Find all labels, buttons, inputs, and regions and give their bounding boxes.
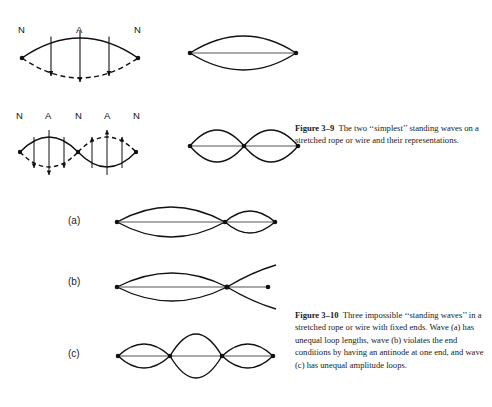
node-dot-left [115,220,120,225]
loop1-arc-up [190,130,244,146]
figure-3-9-row-1-rope [20,31,141,82]
loop-small-arc-up [225,211,275,222]
node-dot-middle [242,144,247,149]
loop-small-arc-down [225,222,275,233]
antinode-label-row2-2: A [45,110,51,121]
node-label-row2-5: N [133,110,140,121]
node-dot-right [273,220,278,225]
node-dot-left [188,51,193,56]
node-dot-right [136,56,141,61]
node-dot-4 [271,354,276,359]
figure-3-10-caption: Figure 3–10 Three impossible ‘‘standing … [295,309,485,371]
figure-3-9-caption: Figure 3–9 The two ‘‘simplest’’ standing… [295,122,485,147]
node-dot-1 [116,354,121,359]
figure-3-10-panel-c-wave [116,334,276,378]
node-dot-right [134,150,138,154]
loop3-arc-down [222,356,273,368]
loop3-arc-up [222,344,273,356]
loop-arc-down [190,53,296,70]
panel-label-c: (c) [68,348,80,359]
node-label-row2-3: N [75,110,82,121]
loop1-arc-down [190,146,244,162]
node-dot-3 [220,354,225,359]
node-dot-left [115,285,120,290]
figure-3-9-row-1-representation [188,36,299,70]
node-dot-left [20,56,25,61]
node-dot-middle [223,220,228,225]
node-dot-left [188,144,193,149]
node-dot-middle [224,284,229,289]
panel-label-a: (a) [68,215,80,226]
antinode-end-dot [266,285,271,290]
loop2-arc-down [244,146,298,162]
figure-3-10-caption-label: Figure 3–10 [295,310,339,320]
loop1-arc-up [118,344,170,356]
loop-big-arc-down [117,222,225,237]
antinode-label-row1-center: A [76,24,82,35]
figure-3-9-caption-label: Figure 3–9 [295,123,334,133]
panel-label-b: (b) [68,276,80,287]
node-dot-right [294,51,299,56]
figure-3-10-panel-b-wave [115,265,276,309]
node-dot-middle [76,150,80,154]
open-end-arc-up [227,265,276,287]
antinode-label-row2-4: A [104,110,110,121]
loop-arc-up [190,36,296,53]
node-label-row2-1: N [16,110,23,121]
node-label-row1-right: N [134,24,141,35]
loop1-arc-down [118,356,170,368]
figure-3-9-row-2-rope [18,130,138,175]
figure-3-9-row-2-representation [188,130,301,162]
loop2-arc-up [244,130,298,146]
loop2-arc-down [170,356,222,378]
loop-arc-down [117,287,227,301]
loop-big-arc-up [117,207,225,222]
node-dot-2 [168,354,173,359]
node-label-row1-left: N [18,24,25,35]
loop2-arc-up [170,334,222,356]
figure-3-10-panel-a-wave [115,207,278,237]
loop-arc-up [117,273,227,287]
node-dot-left [18,150,22,154]
open-end-arc-down [227,287,276,309]
